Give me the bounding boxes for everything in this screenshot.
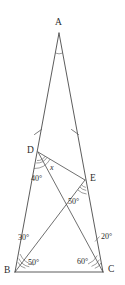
angle-arc-A [55,53,63,54]
geometry-figure: A B C D E 40° x 50° 30° 50° 60° 20° [0,0,125,285]
angle-arc-D-40 [34,159,50,169]
vertex-label-B: B [4,266,10,276]
angle-arc-C-outer [88,256,97,265]
angle-label-unknown-x: x [50,164,54,172]
angle-label-DCA-20: 20° [101,233,112,241]
figure-canvas [0,0,125,285]
vertex-label-D: D [27,146,34,156]
angle-label-EBC-50: 50° [28,259,39,267]
vertex-label-E: E [90,174,96,184]
vertex-label-A: A [55,18,62,28]
angle-label-BDC-40: 40° [31,175,42,183]
angle-label-DCB-60: 60° [77,258,88,266]
vertex-label-C: C [108,265,114,275]
angle-label-DBE-30: 30° [18,234,29,242]
angle-arc-E-50-inner [81,185,86,188]
segment-BE [15,180,85,272]
angle-label-CEB-50: 50° [68,198,79,206]
angle-arc-E-50-outer [78,190,87,194]
segment-DC [38,152,103,272]
segment-AC [59,33,103,272]
